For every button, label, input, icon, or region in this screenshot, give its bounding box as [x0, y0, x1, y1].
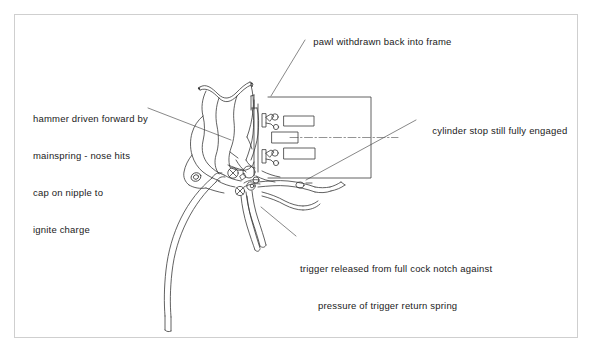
mainspring	[164, 178, 216, 332]
hammer-body	[202, 85, 253, 175]
annotation-hammer-line-2: mainspring - nose hits	[33, 150, 148, 162]
frame-stud	[190, 171, 202, 182]
trigger-sear-arm	[244, 180, 260, 187]
annotation-trigger-released: trigger released from full cock notch ag…	[300, 238, 492, 337]
leader-line-trigger	[261, 207, 296, 236]
chamber-upper	[284, 116, 314, 126]
hammer-spur	[198, 82, 253, 102]
annotation-pawl-withdrawn: pawl withdrawn back into frame	[302, 24, 452, 61]
nipple-upper	[262, 114, 279, 130]
leader-line-pawl	[271, 40, 305, 96]
frame-screw-lower	[235, 186, 244, 195]
annotation-hammer-line-1: hammer driven forward by	[33, 113, 148, 125]
revolver-frame	[184, 116, 224, 193]
frame-screw-upper	[228, 168, 238, 178]
diagram-page: pawl withdrawn back into frame hammer dr…	[0, 0, 590, 353]
trigger	[241, 191, 266, 251]
chamber-lower	[284, 148, 315, 159]
annotation-trigger-line-1: trigger released from full cock notch ag…	[300, 263, 492, 275]
annotation-trigger-line-2: pressure of trigger return spring	[300, 300, 492, 312]
annotation-hammer-driven-forward: hammer driven forward by mainspring - no…	[33, 88, 148, 262]
nipple-lower	[262, 150, 279, 166]
leader-line-cylinder-stop	[306, 120, 416, 180]
annotation-cylinder-stop-line-1: cylinder stop still fully engaged	[432, 125, 567, 136]
internal-detail-lines	[218, 152, 246, 187]
trigger-pivot	[247, 182, 255, 190]
trigger-return-spring	[262, 192, 320, 210]
annotation-cylinder-stop-engaged: cylinder stop still fully engaged	[421, 113, 567, 150]
annotation-pawl-line-1: pawl withdrawn back into frame	[313, 36, 451, 47]
annotation-hammer-line-4: ignite charge	[33, 224, 148, 236]
annotation-hammer-line-3: cap on nipple to	[33, 187, 148, 199]
